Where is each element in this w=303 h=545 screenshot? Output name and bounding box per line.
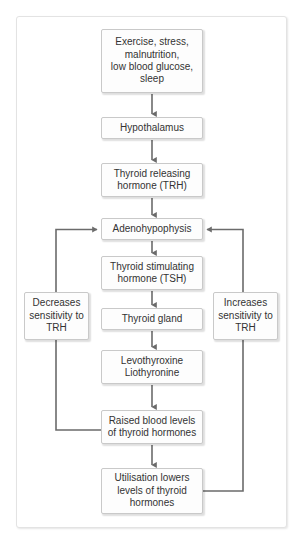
- node-utilisation-lowers-levels: Utilisation lowers levels of thyroid hor…: [101, 468, 203, 514]
- diagram-canvas: Exercise, stress, malnutrition, low bloo…: [0, 0, 303, 545]
- node-decreases-sensitivity: Decreases sensitivity to TRH: [24, 292, 89, 340]
- node-thyroid-releasing-hormone: Thyroid releasing hormone (TRH): [101, 163, 203, 197]
- node-adenohypophysis: Adenohypophysis: [101, 218, 203, 240]
- node-hypothalamus-label: Hypothalamus: [105, 122, 199, 134]
- node-raised-blood-levels: Raised blood levels of thyroid hormones: [101, 410, 203, 444]
- node-adenohypophysis-label: Adenohypophysis: [105, 223, 199, 235]
- node-thyroid-releasing-hormone-label: Thyroid releasing hormone (TRH): [105, 168, 199, 193]
- node-stimuli-label: Exercise, stress, malnutrition, low bloo…: [105, 36, 199, 86]
- edge-utilisation-feedback-right: [203, 230, 243, 492]
- node-thyroid-stimulating-hormone: Thyroid stimulating hormone (TSH): [101, 256, 203, 290]
- node-decreases-sensitivity-label: Decreases sensitivity to TRH: [28, 297, 85, 334]
- node-thyroid-stimulating-hormone-label: Thyroid stimulating hormone (TSH): [105, 261, 199, 286]
- node-hypothalamus: Hypothalamus: [101, 117, 203, 139]
- node-levothyroxine-liothyronine: Levothyroxine Liothyronine: [101, 350, 203, 384]
- node-thyroid-gland-label: Thyroid gland: [105, 313, 199, 325]
- node-thyroid-gland: Thyroid gland: [101, 308, 203, 330]
- node-stimuli: Exercise, stress, malnutrition, low bloo…: [101, 29, 203, 93]
- node-utilisation-lowers-levels-label: Utilisation lowers levels of thyroid hor…: [105, 472, 199, 509]
- node-raised-blood-levels-label: Raised blood levels of thyroid hormones: [105, 415, 199, 440]
- node-increases-sensitivity-label: Increases sensitivity to TRH: [217, 297, 274, 334]
- node-increases-sensitivity: Increases sensitivity to TRH: [213, 292, 278, 340]
- node-levothyroxine-liothyronine-label: Levothyroxine Liothyronine: [105, 355, 199, 380]
